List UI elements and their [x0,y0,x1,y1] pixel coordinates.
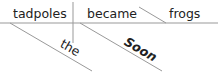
sentence-diagram: tadpoles became frogs the Soon [0,0,218,75]
subject-word: tadpoles [13,8,67,21]
complement-word: frogs [169,8,200,21]
complement-slant-line [139,7,166,23]
verb-word: became [87,8,137,21]
